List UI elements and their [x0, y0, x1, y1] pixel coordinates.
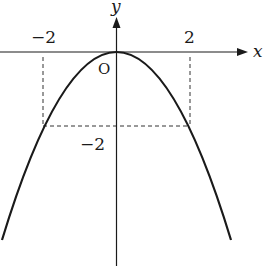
tick-label-y-neg: −2: [80, 134, 105, 154]
x-axis-label: x: [253, 41, 263, 61]
x-axis-arrow-icon: [237, 48, 248, 56]
tick-label-x-pos: 2: [184, 27, 195, 47]
tick-label-x-neg: −2: [31, 27, 56, 47]
graph-canvas: y x O −2 2 −2: [0, 0, 265, 266]
origin-label: O: [98, 60, 110, 78]
y-axis-arrow-icon: [113, 17, 121, 28]
y-axis-label: y: [110, 0, 121, 16]
